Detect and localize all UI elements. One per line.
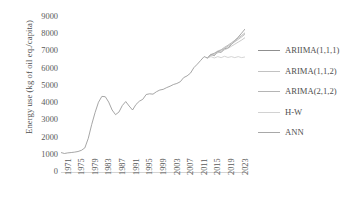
x-tick-label: 1995 (146, 158, 154, 175)
x-tick-label: 1983 (105, 158, 113, 175)
series-line (208, 56, 245, 58)
legend-label: ARIIMA(1,1,1) (285, 46, 339, 55)
x-tick-label: 2023 (242, 158, 250, 175)
y-tick-label: 9000 (41, 13, 58, 21)
y-tick-label: 5000 (41, 82, 58, 90)
chart-legend: ARIIMA(1,1,1)ARIMA(1,1,2)ARIMA(2,1,2)H-W… (258, 44, 355, 146)
series-line (61, 29, 245, 153)
y-tick-label: 1000 (41, 151, 58, 159)
legend-label: ARIMA(1,1,2) (285, 67, 337, 76)
x-tick-label: 1999 (160, 158, 168, 175)
x-axis-tick-labels: 1971197519791983198719911995199920032007… (61, 175, 247, 215)
y-tick-label: 7000 (41, 47, 58, 55)
series-canvas (61, 17, 245, 172)
legend-label: ANN (285, 128, 304, 137)
legend-color-swatch (258, 91, 280, 92)
plot-area (61, 17, 245, 172)
legend-item[interactable]: ARIIMA(1,1,1) (258, 44, 339, 57)
y-tick-label: 2000 (41, 134, 58, 142)
legend-color-swatch (258, 71, 280, 72)
x-tick-label: 2015 (214, 158, 222, 175)
legend-item[interactable]: ARIMA(1,1,2) (258, 65, 337, 78)
legend-color-swatch (258, 112, 280, 113)
y-tick-label: 0 (54, 168, 58, 176)
x-tick-label: 2011 (201, 159, 209, 175)
series-line (208, 38, 245, 58)
x-tick-label: 1971 (65, 158, 73, 175)
legend-label: H-W (285, 108, 302, 117)
legend-color-swatch (258, 132, 280, 133)
chart-figure: Energy use (kg of oil eq./capita) 010002… (0, 0, 355, 215)
x-tick-label: 2003 (174, 158, 182, 175)
legend-item[interactable]: H-W (258, 106, 302, 119)
x-tick-label: 2007 (187, 158, 195, 175)
legend-label: ARIMA(2,1,2) (285, 87, 337, 96)
legend-item[interactable]: ARIMA(2,1,2) (258, 85, 337, 98)
y-tick-label: 8000 (41, 30, 58, 38)
x-tick-label: 1979 (92, 158, 100, 175)
legend-item[interactable]: ANN (258, 126, 304, 139)
y-tick-label: 3000 (41, 116, 58, 124)
y-axis-tick-labels: 0100020003000400050006000700080009000 (28, 17, 58, 172)
x-tick-label: 1991 (133, 158, 141, 175)
x-tick-label: 2019 (228, 158, 236, 175)
legend-color-swatch (258, 50, 280, 51)
x-tick-label: 1975 (78, 158, 86, 175)
y-tick-label: 6000 (41, 65, 58, 73)
y-tick-label: 4000 (41, 99, 58, 107)
x-tick-label: 1987 (119, 158, 127, 175)
